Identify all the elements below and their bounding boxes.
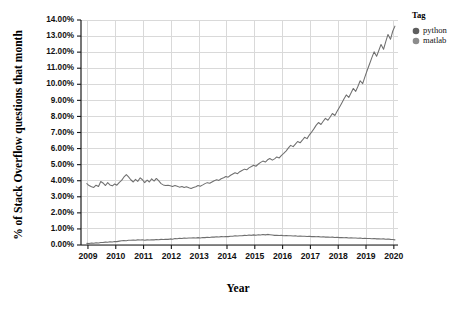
y-tick-label: 6.00% (51, 144, 75, 153)
x-tick-label: 2017 (301, 251, 320, 261)
chart-container: 0.00%1.00%2.00%3.00%4.00%5.00%6.00%7.00%… (0, 0, 471, 309)
x-axis-title: Year (227, 282, 250, 294)
y-tick-label: 5.00% (51, 160, 75, 169)
y-tick-label: 4.00% (51, 176, 75, 185)
y-tick-label: 3.00% (51, 192, 75, 201)
x-tick-label: 2009 (78, 251, 97, 261)
y-tick-label: 7.00% (51, 128, 75, 137)
series-layer (87, 26, 395, 243)
y-tick-label: 1.00% (51, 224, 75, 233)
legend-label-matlab[interactable]: matlab (423, 35, 446, 45)
x-tick-label: 2019 (356, 251, 375, 261)
axis-layer (77, 20, 398, 249)
line-chart: 0.00%1.00%2.00%3.00%4.00%5.00%6.00%7.00%… (0, 0, 471, 309)
y-tick-label: 12.00% (46, 47, 74, 56)
y-tick-label: 13.00% (46, 31, 74, 40)
legend-marker-python[interactable] (413, 28, 420, 35)
legend-marker-matlab[interactable] (413, 38, 420, 45)
x-tick-label: 2018 (329, 251, 348, 261)
y-tick-label: 8.00% (51, 112, 75, 121)
legend-title: Tag (412, 10, 426, 20)
x-tick-label: 2016 (273, 251, 292, 261)
x-tick-label: 2010 (106, 251, 125, 261)
y-tick-label: 14.00% (46, 15, 74, 24)
series-line-matlab (87, 234, 395, 243)
x-tick-label: 2011 (134, 251, 153, 261)
y-tick-label: 2.00% (51, 208, 75, 217)
y-tick-label: 0.00% (51, 240, 75, 249)
x-tick-label: 2014 (217, 251, 236, 261)
legend-label-python[interactable]: python (423, 25, 448, 35)
x-tick-label: 2020 (384, 251, 403, 261)
x-tick-label: 2015 (245, 251, 264, 261)
x-tick-label: 2012 (162, 251, 181, 261)
series-line-python (87, 26, 395, 188)
legend: Tagpythonmatlab (412, 10, 448, 45)
y-tick-label: 10.00% (46, 79, 74, 88)
x-tick-label: 2013 (190, 251, 209, 261)
y-axis-title: % of Stack Overflow questions that month (12, 30, 25, 240)
grid-layer (81, 20, 398, 245)
y-tick-label: 9.00% (51, 96, 75, 105)
y-tick-label: 11.00% (47, 63, 75, 72)
